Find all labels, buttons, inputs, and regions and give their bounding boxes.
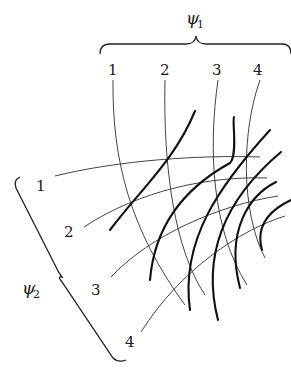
psi1-label-3: 3 xyxy=(212,61,222,79)
psi1-curve-1 xyxy=(113,80,185,305)
psi2-label-3: 3 xyxy=(91,281,101,299)
psi1-brace xyxy=(100,36,291,54)
thick-curve-6 xyxy=(260,200,291,250)
psi1-label-4: 4 xyxy=(253,61,263,79)
psi2-label-2: 2 xyxy=(64,223,74,241)
psi1-curve-2 xyxy=(165,80,205,295)
psi1-curve-3 xyxy=(213,80,247,285)
diagram-svg: ψ 1 1 2 3 4 ψ 2 1 2 3 4 xyxy=(0,0,291,377)
psi2-brace xyxy=(15,177,126,361)
curve-grid-diagram: ψ 1 1 2 3 4 ψ 2 1 2 3 4 xyxy=(0,0,291,377)
psi1-label-1: 1 xyxy=(108,61,118,79)
psi2-label-1: 1 xyxy=(36,177,46,195)
psi2-curve-3 xyxy=(111,196,278,277)
psi1-subscript: 1 xyxy=(197,18,204,31)
psi1-label-2: 2 xyxy=(160,61,170,79)
psi2-label-4: 4 xyxy=(125,333,135,351)
thick-curve-1 xyxy=(110,111,195,230)
psi2-subscript: 2 xyxy=(33,288,40,301)
